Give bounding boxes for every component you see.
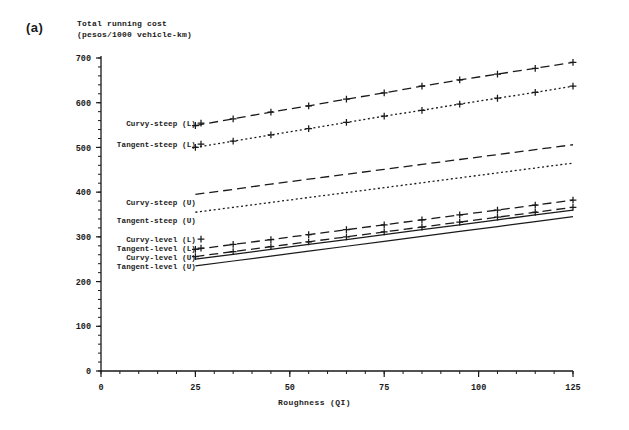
y-tick-label: 300 [76,233,91,243]
legend-marker [198,245,205,252]
legend-label: Curvy-steep (L) [126,120,196,128]
data-point-marker [268,109,275,116]
data-point-marker [456,212,463,219]
data-point-marker [343,226,350,233]
y-tick-label: 0 [86,367,91,377]
x-tick-label: 50 [285,383,295,393]
y-tick-label: 200 [76,278,91,288]
data-point-marker [230,241,237,248]
y-tick-label: 700 [76,54,91,64]
x-tick-label: 0 [98,383,103,393]
x-tick-label: 25 [190,383,200,393]
y-tick-label: 500 [76,144,91,154]
x-tick-label: 100 [471,383,486,393]
data-point-marker [494,71,501,78]
series-line [195,163,573,212]
data-point-marker [494,95,501,102]
data-point-marker [494,207,501,214]
series-curvy-steep-u [195,145,573,195]
legend-label: Tangent-steep (U) [117,217,196,225]
series-curvy-level-l [192,197,576,253]
y-tick-label: 100 [76,322,91,332]
data-point-marker [268,132,275,139]
legend-label: Tangent-level (L) [117,245,196,253]
series-group [192,59,576,266]
series-tangent-steep-u [195,163,573,212]
data-point-marker [381,113,388,120]
legend-marker [198,236,205,243]
data-point-marker [268,236,275,243]
data-point-marker [305,102,312,109]
data-point-marker [419,107,426,114]
axis-lines [101,56,573,371]
data-point-marker [381,89,388,96]
figure-panel: (a) Total running cost (pesos/1000 vehic… [0,0,629,430]
legend-label: Tangent-steep (L) [117,141,196,149]
x-tick-label: 125 [565,383,580,393]
data-point-marker [305,125,312,132]
data-point-marker [305,231,312,238]
data-point-marker [230,115,237,122]
data-point-marker [419,83,426,90]
data-point-marker [343,96,350,103]
y-tick-label: 600 [76,99,91,109]
data-point-marker [381,221,388,228]
legend-label: Curvy-level (L) [126,236,196,244]
data-point-marker [532,89,539,96]
series-line [195,210,573,259]
data-point-marker [230,138,237,145]
legend-marker [198,141,205,148]
data-point-marker [570,83,577,90]
data-point-marker [532,65,539,72]
series-curvy-level-u [195,210,573,259]
legend-label: Curvy-level (U) [126,254,196,262]
data-point-marker [419,216,426,223]
line-chart-plot: 01002003004005006007000255075100125 Curv… [0,0,629,430]
legend-group: Curvy-steep (L)Tangent-steep (L)Curvy-st… [117,120,205,271]
data-point-marker [570,197,577,204]
y-tick-label: 400 [76,188,91,198]
data-point-marker [456,77,463,84]
data-point-marker [456,101,463,108]
x-tick-label: 75 [379,383,389,393]
series-line [195,145,573,195]
data-point-marker [570,59,577,66]
data-point-marker [532,202,539,209]
legend-label: Curvy-steep (U) [126,199,196,207]
data-point-marker [343,119,350,126]
legend-label: Tangent-level (U) [117,263,196,271]
